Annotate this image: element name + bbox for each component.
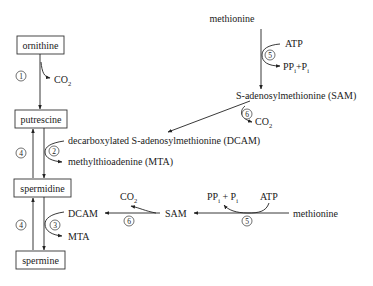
dcam-short-label: DCAM	[68, 208, 98, 219]
co2-label-top: CO2	[255, 116, 272, 129]
ppi-pi-label: PPi+Pi	[283, 61, 309, 74]
ornithine-label: ornithine	[22, 40, 59, 51]
enzyme-1-badge: 1	[19, 72, 23, 81]
sam-short-label: SAM	[165, 208, 187, 219]
putrescine-label: putrescine	[20, 114, 62, 125]
reaction-5-top: methionine 5 ATP PPi+Pi	[210, 13, 310, 89]
reaction-6-bottom: 6 CO2 SAM	[105, 191, 187, 226]
mta-full-label: methylthioadenine (MTA)	[68, 156, 173, 168]
spermine-label: spermine	[22, 255, 59, 266]
atp-label: ATP	[285, 38, 303, 49]
putrescine-node: putrescine	[15, 110, 67, 128]
co2-release-arrow-lower	[131, 206, 156, 213]
reaction-2-and-4: 4 2 decarboxylated S-adenosylmethionine …	[16, 128, 260, 178]
enzyme-4-badge-lower: 4	[19, 221, 23, 230]
arrow-sam-to-dcam	[168, 101, 250, 132]
enzyme-3-badge: 3	[53, 221, 57, 230]
ornithine-node: ornithine	[17, 36, 64, 54]
enzyme-4-badge: 4	[19, 149, 23, 158]
reaction-1: 1 CO2	[16, 54, 71, 109]
spermidine-label: spermidine	[20, 183, 65, 194]
co2-label-lower: CO2	[120, 191, 137, 204]
enzyme-6-badge: 6	[245, 110, 249, 119]
enzyme-6-badge-lower: 6	[127, 217, 131, 226]
co2-label: CO2	[54, 74, 71, 87]
methionine-top-label: methionine	[210, 13, 256, 24]
mta-short-label: MTA	[68, 231, 90, 242]
atp-label-lower: ATP	[260, 191, 278, 202]
enzyme-5-badge-lower: 5	[245, 217, 249, 226]
reaction-3-and-4: 4 3 DCAM MTA	[16, 197, 98, 250]
reaction-6-top: S-adenosylmethionine (SAM) 6 CO2	[168, 90, 356, 132]
ppi-pi-label-lower: PPi + Pi	[207, 191, 238, 204]
sam-full-label: S-adenosylmethionine (SAM)	[236, 90, 356, 102]
spermine-node: spermine	[16, 251, 65, 269]
reaction-5-bottom: 5 PPi + Pi ATP methionine	[194, 191, 339, 226]
enzyme-2-badge: 2	[52, 147, 56, 156]
spermidine-node: spermidine	[14, 179, 71, 197]
co2-release-arrow	[41, 62, 50, 78]
methionine-bottom-label: methionine	[293, 208, 339, 219]
dcam-full-label: decarboxylated S-adenosylmethionine (DCA…	[68, 135, 260, 147]
enzyme-5-badge: 5	[268, 51, 272, 60]
atp-to-ppi-curve-lower	[224, 203, 269, 213]
polyamine-pathway-diagram: ornithine putrescine spermidine spermine…	[0, 0, 373, 286]
